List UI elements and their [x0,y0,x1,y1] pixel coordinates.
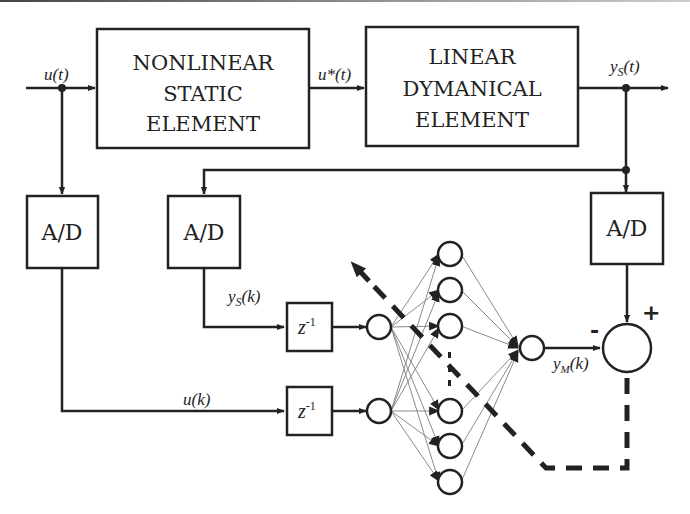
hidden-neuron-3 [438,314,462,338]
block-diagram: u(t) NONLINEAR STATIC ELEMENT u*(t) LINE… [0,0,690,514]
delay-ys-exponent: -1 [306,315,316,329]
hidden-neuron-4 [438,399,462,423]
signal-u-star-t: u*(t) [318,65,351,84]
ad-converter-input: A/D [27,196,98,268]
hidden-output-connections [461,254,518,482]
signal-u-k: u(k) [183,390,211,409]
diagram-canvas: u(t) NONLINEAR STATIC ELEMENT u*(t) LINE… [0,0,690,514]
nonlinear-label-line2: STATIC [163,82,243,106]
input-hidden-connections [391,254,439,482]
input-neuron-1 [367,315,391,339]
plus-sign: + [642,300,660,325]
linear-label-line2: DYMANICAL [402,77,541,101]
signal-u-t: u(t) [44,65,69,84]
delay-u-z: z [297,400,306,422]
output-neuron [520,336,544,360]
hidden-neuron-5 [438,434,462,458]
forward-path: u(t) NONLINEAR STATIC ELEMENT u*(t) LINE… [26,27,668,148]
linear-label-line1: LINEAR [429,45,517,69]
hidden-neuron-6 [438,470,462,494]
nonlinear-static-element-block: NONLINEAR STATIC ELEMENT [97,29,309,148]
ad-output-label: A/D [606,216,648,241]
ad-input-label: A/D [41,220,83,245]
ad-converter-feedback: A/D [168,196,240,268]
signal-ym-k: yM(k) [551,354,589,375]
signal-ys-t: yS(t) [608,57,640,79]
hidden-neuron-2 [438,278,462,302]
delay-block-u: z-1 [287,387,332,435]
linear-dynamical-element-block: LINEAR DYMANICAL ELEMENT [366,27,578,146]
ad-converter-output: A/D [591,193,663,264]
delay-block-ys: z-1 [287,303,332,351]
summing-junction: + - [590,300,660,372]
ad-feedback-label: A/D [183,220,225,245]
neural-network [367,242,544,494]
error-dashed-line [369,281,627,468]
input-neuron-2 [367,399,391,423]
nonlinear-label-line1: NONLINEAR [133,51,275,75]
hidden-neuron-1 [438,242,462,266]
feedback-to-ad-line [204,170,626,194]
weight-adjust-arrow-icon [356,267,369,281]
nonlinear-label-line3: ELEMENT [146,112,260,136]
delay-u-exponent: -1 [306,399,316,413]
top-border [0,0,690,2]
linear-label-line3: ELEMENT [415,108,529,132]
minus-sign: - [590,318,599,343]
signal-ys-k: yS(k) [226,287,261,309]
delay-ys-z: z [297,316,306,338]
